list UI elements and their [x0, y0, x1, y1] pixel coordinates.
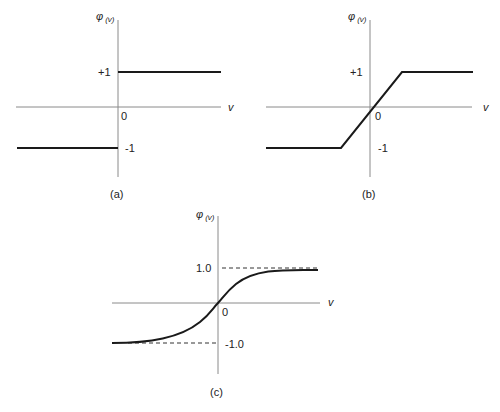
y-axis-label: φ(v)	[196, 208, 215, 222]
x-axis-label: v	[328, 296, 335, 308]
neg-tick-label: -1	[125, 142, 135, 154]
y-axis-label: φ(v)	[96, 10, 115, 24]
y-axis-label: φ(v)	[348, 10, 367, 24]
origin-label: 0	[222, 306, 228, 318]
neg-tick-label: -1.0	[225, 338, 244, 350]
caption-b: (b)	[362, 188, 375, 200]
panel-b: φ(v) +1 -1 0 v (b)	[266, 10, 490, 200]
sigmoid-curve	[112, 270, 318, 343]
pos-tick-label: 1.0	[196, 262, 211, 274]
caption-c: (c)	[210, 386, 223, 398]
neg-tick-label: -1	[378, 142, 388, 154]
x-axis-label: v	[228, 101, 235, 113]
origin-label: 0	[121, 110, 127, 122]
panel-a: φ(v) +1 -1 0 v (a)	[16, 10, 235, 200]
x-axis-label: v	[483, 101, 490, 113]
panel-c: φ(v) 1.0 -1.0 0 v (c)	[112, 208, 335, 398]
caption-a: (a)	[110, 188, 123, 200]
origin-label: 0	[375, 110, 381, 122]
pos-tick-label: +1	[350, 66, 363, 78]
pos-tick-label: +1	[98, 66, 111, 78]
activation-functions-figure: φ(v) +1 -1 0 v (a) φ(v) +1 -1 0 v (b) φ(…	[0, 0, 500, 412]
